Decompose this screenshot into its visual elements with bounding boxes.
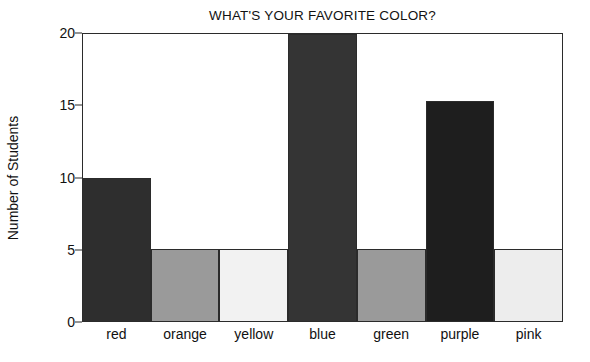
x-tick-label-pink: pink	[494, 326, 563, 342]
bar-series	[83, 34, 562, 321]
bar-orange	[151, 249, 220, 321]
y-tick-mark-0	[75, 322, 82, 323]
x-tick-label-orange: orange	[151, 326, 220, 342]
y-tick-mark-10	[75, 177, 82, 178]
x-tick-label-green: green	[357, 326, 426, 342]
bar-purple	[426, 101, 495, 321]
y-tick-label-10: 10	[35, 170, 75, 186]
x-tick-label-blue: blue	[288, 326, 357, 342]
bar-pink	[494, 249, 562, 321]
x-axis-tick-labels: redorangeyellowbluegreenpurplepink	[82, 326, 563, 342]
y-axis-title-container: Number of Students	[0, 33, 26, 322]
y-tick-label-5: 5	[35, 242, 75, 258]
x-tick-label-purple: purple	[426, 326, 495, 342]
plot-area	[82, 33, 563, 322]
y-tick-mark-5	[75, 249, 82, 250]
bar-chart: WHAT'S YOUR FAVORITE COLOR? Number of St…	[0, 0, 590, 362]
chart-title: WHAT'S YOUR FAVORITE COLOR?	[82, 8, 563, 23]
bar-yellow	[219, 249, 288, 321]
y-tick-mark-20	[75, 33, 82, 34]
x-tick-label-yellow: yellow	[219, 326, 288, 342]
y-tick-label-20: 20	[35, 25, 75, 41]
y-axis-title: Number of Students	[5, 115, 21, 240]
y-tick-label-15: 15	[35, 97, 75, 113]
bar-red	[83, 178, 151, 322]
x-tick-label-red: red	[82, 326, 151, 342]
bar-blue	[288, 34, 357, 321]
y-tick-label-0: 0	[35, 314, 75, 330]
bar-green	[357, 249, 426, 321]
y-tick-mark-15	[75, 105, 82, 106]
